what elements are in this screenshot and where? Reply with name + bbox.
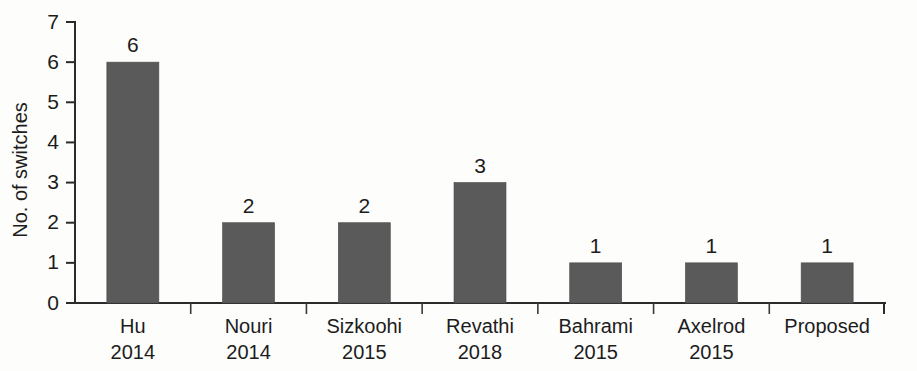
bar — [223, 223, 275, 303]
y-tick-label: 4 — [47, 130, 59, 153]
bar-value-label: 6 — [127, 33, 139, 56]
x-category-label: Sizkoohi2015 — [326, 315, 402, 363]
y-tick-label: 7 — [47, 10, 59, 33]
bar-value-label: 3 — [474, 154, 486, 177]
x-category-label: Bahrami2015 — [558, 315, 632, 363]
x-category-name: Sizkoohi — [326, 315, 402, 337]
y-tick-label: 5 — [47, 90, 59, 113]
x-axis-category-labels: Hu2014Nouri2014Sizkoohi2015Revathi2018Ba… — [111, 315, 870, 363]
x-category-name: Axelrod — [678, 315, 746, 337]
x-category-label: Axelrod2015 — [678, 315, 746, 363]
y-tick-label: 3 — [47, 170, 59, 193]
chart-canvas: 01234567 6223111 Hu2014Nouri2014Sizkoohi… — [0, 0, 917, 371]
x-category-label: Revathi2018 — [446, 315, 514, 363]
x-category-label: Proposed — [784, 315, 870, 337]
y-tick-label: 0 — [47, 291, 59, 314]
y-tick-label: 1 — [47, 250, 59, 273]
bar-value-label: 1 — [821, 234, 833, 257]
x-category-year: 2014 — [226, 341, 271, 363]
x-category-name: Nouri — [225, 315, 273, 337]
x-category-year: 2015 — [342, 341, 387, 363]
y-axis-ticks: 01234567 — [47, 10, 75, 314]
x-axis-category-separators — [191, 303, 770, 314]
x-category-name: Bahrami — [558, 315, 632, 337]
bar — [685, 263, 737, 303]
x-category-year: 2018 — [458, 341, 503, 363]
x-category-name: Hu — [120, 315, 146, 337]
y-axis-title-group: No. of switches — [9, 102, 31, 238]
bar — [107, 62, 159, 303]
x-category-year: 2015 — [689, 341, 734, 363]
y-tick-label: 2 — [47, 210, 59, 233]
bar-value-label: 2 — [243, 194, 255, 217]
bar-chart-figure: 01234567 6223111 Hu2014Nouri2014Sizkoohi… — [0, 0, 917, 371]
bar-value-label: 1 — [706, 234, 718, 257]
bar — [338, 223, 390, 303]
y-axis-title: No. of switches — [9, 102, 31, 238]
bar — [570, 263, 622, 303]
y-tick-label: 6 — [47, 50, 59, 73]
x-category-label: Nouri2014 — [225, 315, 273, 363]
bar — [454, 183, 506, 303]
x-category-name: Proposed — [784, 315, 870, 337]
bar — [801, 263, 853, 303]
x-category-year: 2014 — [111, 341, 156, 363]
bar-value-label: 1 — [590, 234, 602, 257]
x-category-year: 2015 — [573, 341, 618, 363]
bar-value-label: 2 — [358, 194, 370, 217]
x-category-label: Hu2014 — [111, 315, 156, 363]
x-axis-group — [75, 303, 885, 314]
bar-series — [107, 62, 853, 303]
x-category-name: Revathi — [446, 315, 514, 337]
